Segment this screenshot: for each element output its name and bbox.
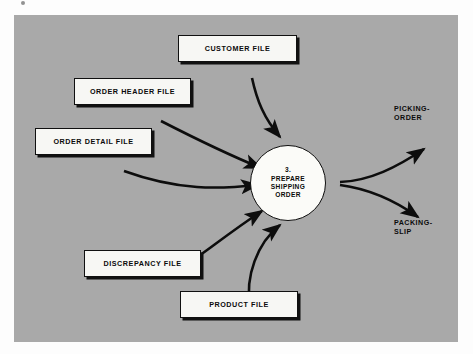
- process-name-line-1: PREPARE: [271, 175, 305, 183]
- process-prepare-shipping-order[interactable]: 3. PREPARE SHIPPING ORDER: [250, 145, 326, 221]
- data-store-label: CUSTOMER FILE: [205, 44, 271, 53]
- flow-arrow-packing-slip: [340, 185, 418, 217]
- diagram-panel: CUSTOMER FILE ORDER HEADER FILE ORDER DE…: [14, 15, 458, 342]
- flow-arrow-order-detail-file: [124, 171, 258, 188]
- output-label-packing-slip: PACKING- SLIP: [394, 219, 433, 237]
- data-store-customer-file[interactable]: CUSTOMER FILE: [178, 35, 297, 62]
- process-name-line-3: ORDER: [275, 191, 301, 199]
- flow-arrow-order-header-file: [161, 121, 261, 168]
- data-store-label: ORDER DETAIL FILE: [53, 137, 133, 146]
- data-store-label: PRODUCT FILE: [209, 300, 269, 309]
- flow-arrow-customer-file: [252, 78, 280, 137]
- process-name-line-2: SHIPPING: [271, 183, 305, 191]
- page-artifact-speck: [21, 1, 25, 5]
- output-label-line-1: PICKING-: [394, 105, 430, 114]
- data-store-product-file[interactable]: PRODUCT FILE: [180, 291, 298, 318]
- output-label-line-1: PACKING-: [394, 219, 433, 228]
- output-label-line-2: ORDER: [394, 114, 430, 123]
- data-store-discrepancy-file[interactable]: DISCREPANCY FILE: [84, 250, 201, 277]
- process-number: 3.: [285, 166, 291, 174]
- flow-arrow-picking-order: [340, 149, 424, 182]
- data-store-label: DISCREPANCY FILE: [103, 259, 181, 268]
- data-store-order-detail-file[interactable]: ORDER DETAIL FILE: [35, 128, 152, 155]
- data-store-label: ORDER HEADER FILE: [90, 87, 175, 96]
- output-label-line-2: SLIP: [394, 228, 433, 237]
- output-label-picking-order: PICKING- ORDER: [394, 105, 430, 123]
- diagram-canvas: CUSTOMER FILE ORDER HEADER FILE ORDER DE…: [0, 0, 473, 354]
- data-store-order-header-file[interactable]: ORDER HEADER FILE: [74, 78, 191, 105]
